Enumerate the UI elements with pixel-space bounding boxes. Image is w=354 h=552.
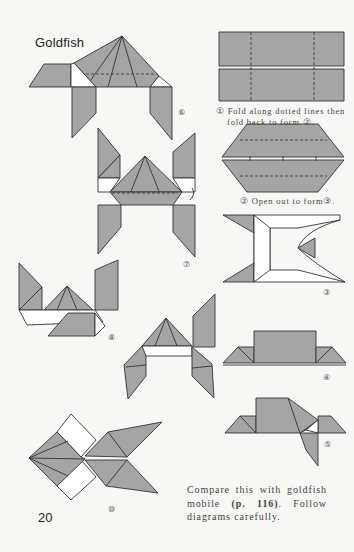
instruction-note: Compare this with goldfish mobile (p. 11… xyxy=(187,483,327,524)
step-2-caption: ② Open out to form③. xyxy=(240,196,335,207)
diagram-step-2 xyxy=(222,124,344,192)
page-reference: (p. 116) xyxy=(232,498,279,509)
origami-diagrams xyxy=(0,0,354,552)
diagram-step-3 xyxy=(223,215,345,282)
step-6-label: ⑥ xyxy=(178,108,185,117)
diagram-step-4 xyxy=(223,331,346,365)
step-4-label: ④ xyxy=(323,373,330,382)
step-10-label: ⑩ xyxy=(108,505,115,514)
diagram-step-10 xyxy=(29,414,162,500)
diagram-step-6 xyxy=(29,36,172,140)
diagram-step-9 xyxy=(124,294,215,399)
diagram-step-8 xyxy=(19,260,118,336)
diagram-step-5 xyxy=(225,398,346,466)
step-1-caption: ① Fold along dotted lines then fold back… xyxy=(216,106,345,128)
step-1-label: ① xyxy=(216,106,225,116)
step-8-label: ⑧ xyxy=(108,333,115,342)
diagram-step-7 xyxy=(98,128,195,257)
step-7-label: ⑦ xyxy=(183,260,190,269)
diagram-step-1 xyxy=(219,32,344,101)
step-2-label: ② xyxy=(240,196,249,206)
step-5-label: ⑤ xyxy=(324,440,331,449)
page-number: 20 xyxy=(38,510,52,525)
step-3-label: ③ xyxy=(323,288,330,297)
